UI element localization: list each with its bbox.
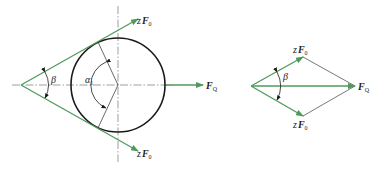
beta-angle-label-right: β: [282, 71, 288, 82]
upper-force-label-right: zF0: [292, 44, 308, 56]
upper-belt-force-arrow: [21, 19, 138, 85]
alpha-angle-label: α1: [85, 74, 93, 86]
upper-force-vector: [251, 57, 303, 86]
upper-force-label: zF0: [136, 15, 152, 27]
parallelogram-edge-top: [303, 57, 355, 86]
beta-angle-label: β: [50, 74, 56, 85]
lower-belt-force-arrow: [21, 85, 138, 151]
lower-force-label: zF0: [136, 148, 152, 160]
lower-force-vector: [251, 86, 303, 116]
force-parallelogram: zF0 zF0 FQ β: [251, 44, 370, 131]
resultant-force-label: FQ: [205, 80, 218, 92]
radius-lower: [98, 85, 118, 128]
pulley-diagram: zF0 zF0 FQ β α1: [12, 6, 218, 162]
radius-upper: [98, 42, 118, 85]
lower-force-label-right: zF0: [292, 119, 308, 131]
belt-force-diagram: zF0 zF0 FQ β α1 zF0 zF0 FQ β: [0, 0, 380, 170]
resultant-force-label-right: FQ: [357, 81, 370, 93]
parallelogram-edge-bottom: [303, 86, 355, 116]
